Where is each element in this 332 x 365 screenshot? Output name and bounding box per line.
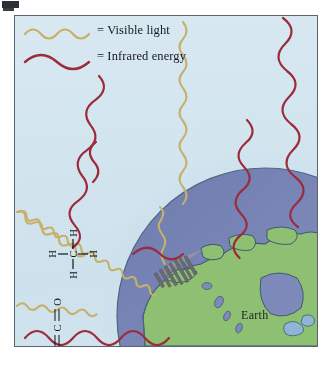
ch4-atom-h-right: H bbox=[68, 229, 79, 237]
greenhouse-effect-figure: C H H H H O C O bbox=[0, 0, 332, 365]
ch4-atom-h-left: H bbox=[68, 271, 79, 279]
ch4-atom-h-bottom: H bbox=[88, 250, 99, 258]
lake-small-1 bbox=[202, 283, 212, 290]
earth-label: Earth bbox=[241, 308, 269, 323]
arctic-island-mid bbox=[201, 244, 224, 259]
co2-atom-carbon: C bbox=[52, 324, 63, 331]
carbon-dioxide-molecule: O C O bbox=[52, 298, 63, 346]
co2-atom-o-right: O bbox=[52, 298, 63, 306]
page-corner-artifact bbox=[2, 1, 19, 8]
infrared-ray-short-left bbox=[90, 142, 98, 182]
legend-visible-wave-icon bbox=[25, 30, 89, 39]
ch4-atom-carbon: C bbox=[68, 250, 79, 257]
diagram-artwork: C H H H H O C O bbox=[15, 16, 317, 346]
great-lakes-east bbox=[301, 315, 315, 326]
legend-infrared-wave-icon bbox=[25, 55, 89, 69]
figure-frame: C H H H H O C O bbox=[14, 15, 318, 347]
ch4-atom-h-top: H bbox=[47, 250, 58, 258]
greenland-landmass bbox=[267, 227, 297, 244]
